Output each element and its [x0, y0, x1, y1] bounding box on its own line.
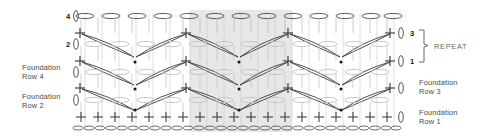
- foundation-row-1-label: Foundation Row 1: [419, 108, 457, 126]
- repeat-bracket: [419, 30, 428, 62]
- bottom-sc-row: [76, 112, 392, 122]
- foundation-row-2-label-line1: Foundation: [22, 92, 60, 101]
- row-2-posts: [81, 46, 387, 61]
- foundation-row-3-label-line1: Foundation: [419, 78, 457, 87]
- right-edge-turning-chains: [399, 28, 404, 123]
- foundation-row-3-label-line2: Row 3: [419, 87, 457, 96]
- row-1-join-dots: [134, 61, 343, 64]
- foundation-row-4-label-line1: Foundation: [22, 63, 60, 72]
- crochet-chart-page: Foundation Row 4 Foundation Row 2 Founda…: [0, 0, 483, 137]
- foundation-row-3-label: Foundation Row 3: [419, 78, 457, 96]
- row-number-4: 4: [66, 13, 70, 21]
- row-4-posts: [81, 18, 387, 33]
- foundation-row-3-join-dots: [134, 88, 343, 91]
- foundation-row-2-label: Foundation Row 2: [22, 92, 60, 110]
- stitch-chart-svg: [0, 0, 483, 137]
- foundation-row-4-label: Foundation Row 4: [22, 63, 60, 81]
- foundation-row-2-join-dots: [134, 109, 343, 112]
- row-number-2: 2: [66, 41, 70, 49]
- foundation-row-4-turning-chain: [74, 67, 79, 78]
- repeat-label: REPEAT: [434, 42, 467, 51]
- row-number-3: 3: [410, 30, 414, 38]
- foundation-row-2-label-line2: Row 2: [22, 101, 60, 110]
- row-2-turning-chain: [74, 39, 79, 50]
- foundation-row-1-label-line2: Row 1: [419, 117, 457, 126]
- row-number-1: 1: [410, 58, 414, 66]
- foundation-row-2-turning-chain: [74, 95, 79, 106]
- foundation-row-1-label-line1: Foundation: [419, 108, 457, 117]
- foundation-row-4-label-line2: Row 4: [22, 72, 60, 81]
